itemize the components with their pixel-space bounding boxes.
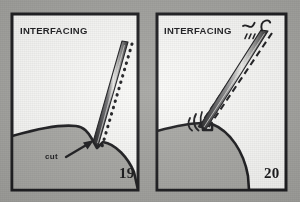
panel-left-figure-number: 19	[119, 165, 135, 182]
scanned-figure-page: INTERFACING cut 19 INTERFACING 20	[0, 0, 300, 202]
panel-left-interfacing-label: INTERFACING	[20, 25, 88, 36]
panel-right-figure-number: 20	[264, 165, 280, 182]
panel-left-cut-label: cut	[45, 152, 58, 161]
panel-right-interfacing-label: INTERFACING	[164, 25, 232, 36]
